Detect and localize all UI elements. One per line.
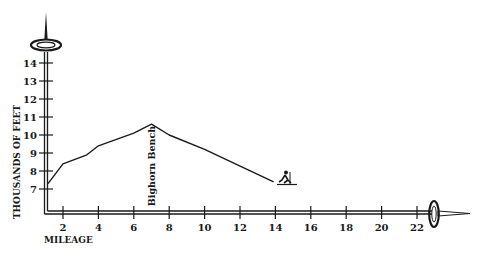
x-tick-label: 12 bbox=[233, 222, 247, 233]
y-axis-title: THOUSANDS OF FEET bbox=[12, 105, 22, 220]
bighorn-bench-label: Bighorn Bench bbox=[146, 126, 157, 207]
elevation-line bbox=[48, 124, 274, 183]
x-tick-label: 8 bbox=[166, 222, 173, 233]
x-tick-label: 4 bbox=[95, 222, 102, 233]
x-axis-title: MILEAGE bbox=[44, 235, 93, 245]
x-tick-label: 20 bbox=[375, 222, 389, 233]
x-tick-label: 6 bbox=[130, 222, 137, 233]
y-tick-label: 8 bbox=[30, 166, 37, 177]
x-axis bbox=[45, 201, 471, 227]
x-tick-label: 18 bbox=[339, 222, 353, 233]
y-tick-label: 12 bbox=[23, 94, 37, 105]
elevation-chart: 7891011121314 246810121416182022 THOUSAN… bbox=[0, 0, 484, 254]
pole-basket-icon bbox=[31, 40, 61, 51]
y-ticks: 7891011121314 bbox=[23, 58, 53, 195]
pole-tip-icon bbox=[438, 211, 470, 216]
y-tick-label: 14 bbox=[23, 58, 37, 69]
y-tick-label: 11 bbox=[23, 112, 37, 123]
x-tick-label: 2 bbox=[60, 222, 67, 233]
y-tick-label: 7 bbox=[30, 184, 37, 195]
x-tick-label: 22 bbox=[410, 222, 424, 233]
y-tick-label: 10 bbox=[23, 130, 37, 141]
x-tick-label: 14 bbox=[268, 222, 282, 233]
pole-tip-icon bbox=[44, 12, 47, 40]
y-tick-label: 9 bbox=[30, 148, 37, 159]
skier-icon bbox=[277, 171, 297, 185]
x-tick-label: 10 bbox=[198, 222, 212, 233]
y-tick-label: 13 bbox=[23, 76, 37, 87]
x-tick-label: 16 bbox=[304, 222, 318, 233]
x-ticks: 246810121416182022 bbox=[60, 206, 424, 233]
